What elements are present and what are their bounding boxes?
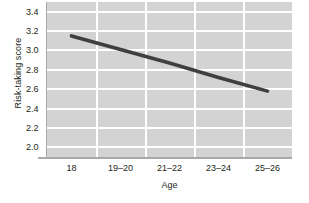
y-tick-label: 2.2	[26, 123, 46, 133]
x-tick-label: 23–24	[206, 163, 231, 173]
x-axis-line	[38, 157, 292, 159]
x-axis-tick-labels: 1819–2021–2223–2425–26	[0, 163, 309, 177]
x-tick-label: 19–20	[108, 163, 133, 173]
y-axis-title: Risk-taking score	[13, 18, 23, 128]
y-tick-label: 3.2	[26, 26, 46, 36]
plot-area	[47, 2, 292, 157]
data-line	[72, 36, 268, 91]
y-tick-label: 3.4	[26, 7, 46, 17]
x-tick-label: 18	[66, 163, 76, 173]
y-axis-tick-labels: 2.02.22.42.62.83.03.23.4	[26, 2, 46, 157]
x-tick-label: 25–26	[255, 163, 280, 173]
data-series-layer	[47, 2, 292, 157]
y-tick-label: 3.0	[26, 45, 46, 55]
y-tick-label: 2.0	[26, 142, 46, 152]
y-tick-label: 2.8	[26, 65, 46, 75]
chart-figure: Risk-taking score 2.02.22.42.62.83.03.23…	[0, 0, 309, 203]
x-tick-label: 21–22	[157, 163, 182, 173]
y-tick-label: 2.6	[26, 84, 46, 94]
x-axis-title: Age	[47, 180, 292, 190]
y-tick-label: 2.4	[26, 104, 46, 114]
